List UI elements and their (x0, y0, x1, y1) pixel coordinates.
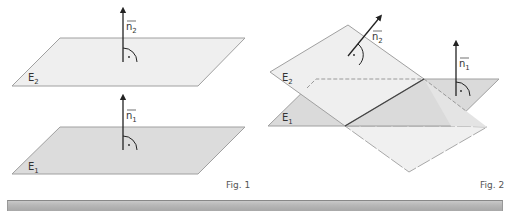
normal-n1-label: n1 (459, 58, 470, 72)
right-angle-dot-icon (353, 54, 355, 56)
plane-e1 (12, 127, 245, 174)
figure-2: n2 E2 n1 E1 (268, 17, 499, 172)
right-angle-dot-icon (460, 90, 462, 92)
figure-1: n2 E2 n1 E1 (12, 10, 245, 175)
plane-e2 (12, 38, 245, 86)
figure-2-caption: Fig. 2 (480, 180, 504, 190)
figure-canvas: n2 E2 n1 E1 (0, 0, 512, 211)
bottom-divider-bar (7, 200, 503, 211)
figure-1-caption: Fig. 1 (226, 180, 250, 190)
right-angle-dot-icon (128, 144, 130, 146)
normal-n1-label: n1 (126, 110, 137, 124)
plane-e2-lower (345, 126, 487, 172)
normal-n2-label: n2 (126, 21, 137, 35)
right-angle-dot-icon (128, 56, 130, 58)
